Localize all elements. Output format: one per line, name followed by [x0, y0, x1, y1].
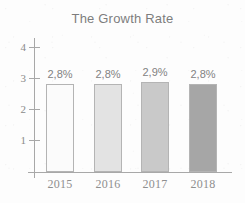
bar-2016 [94, 84, 122, 172]
x-tick-label-2015: 2015 [37, 177, 83, 192]
x-axis-line [28, 172, 232, 173]
y-tick-label-4: 4 [0, 41, 26, 53]
y-tick-label-2: 2 [0, 103, 26, 115]
growth-rate-bar-chart: The Growth Rate 4 3 2 1 2,8% 2,8% 2,9% 2… [0, 0, 245, 203]
chart-title: The Growth Rate [0, 11, 245, 26]
y-tick-mark-2 [29, 109, 40, 110]
bar-2017 [141, 82, 169, 172]
x-tick-label-2017: 2017 [132, 177, 178, 192]
x-tick-label-2016: 2016 [85, 177, 131, 192]
x-tick-label-2018: 2018 [180, 177, 226, 192]
y-tick-mark-1 [29, 140, 40, 141]
bar-value-2017: 2,9% [134, 66, 176, 78]
y-axis-line [34, 38, 35, 178]
bar-value-2018: 2,8% [182, 68, 224, 80]
y-tick-mark-4 [29, 47, 40, 48]
y-tick-label-3: 3 [0, 72, 26, 84]
bar-2015 [46, 84, 74, 172]
y-tick-label-1: 1 [0, 134, 26, 146]
bar-value-2015: 2,8% [39, 68, 81, 80]
bar-2018 [189, 84, 217, 172]
bar-value-2016: 2,8% [87, 68, 129, 80]
